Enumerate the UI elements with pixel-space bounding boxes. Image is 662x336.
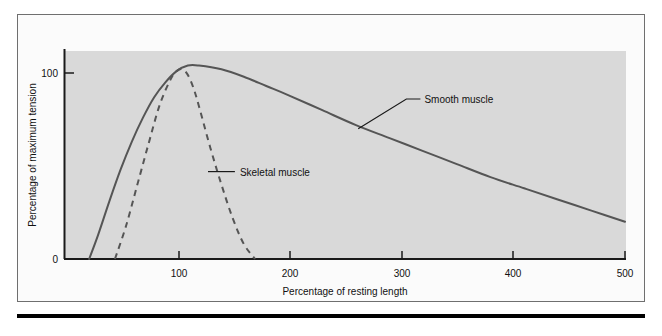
muscle-tension-chart: 100 0 100 200 300 400 500 Percentage of …	[18, 15, 644, 301]
x-tick-label-100: 100	[171, 268, 188, 279]
y-tick-label-100: 100	[41, 68, 58, 79]
x-axis-title: Percentage of resting length	[282, 286, 407, 297]
series-label-smooth-muscle: Smooth muscle	[424, 94, 493, 105]
x-tick-label-300: 300	[394, 268, 411, 279]
x-tick-label-200: 200	[282, 268, 299, 279]
figure-container: 100 0 100 200 300 400 500 Percentage of …	[0, 0, 662, 336]
y-tick-label-0: 0	[52, 254, 58, 265]
x-tick-label-500: 500	[617, 268, 634, 279]
bottom-horizontal-rule	[17, 314, 645, 318]
plot-background	[65, 51, 626, 259]
series-label-skeletal-muscle: Skeletal muscle	[240, 167, 310, 178]
y-axis-title: Percentage of maximum tension	[27, 83, 38, 226]
figure-frame: 100 0 100 200 300 400 500 Percentage of …	[17, 14, 645, 302]
x-tick-label-400: 400	[505, 268, 522, 279]
